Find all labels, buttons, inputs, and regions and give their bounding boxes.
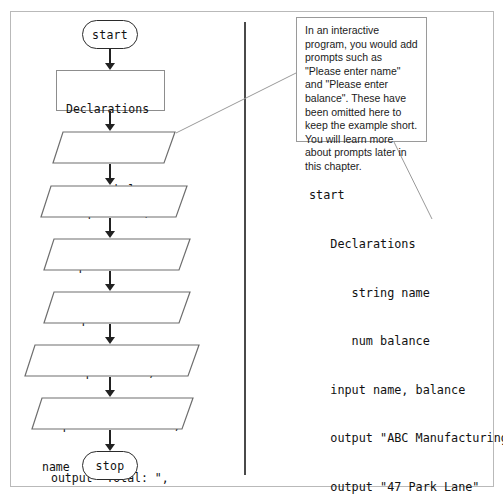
pseudocode-line: output "ABC Manufacturing" — [309, 430, 503, 446]
parallelogram-shape — [43, 238, 191, 271]
pseudocode-line: string name — [309, 285, 503, 301]
flow-node-output-customer: output "Customer: ", name — [24, 344, 200, 377]
connector-park-to-omro — [104, 271, 116, 292]
flow-node-input: input name, balance — [52, 131, 176, 164]
callout-note: In an interactive program, you would add… — [296, 17, 427, 142]
parallelogram-shape — [31, 397, 194, 430]
connector-input-to-output-abc — [104, 164, 116, 186]
pseudocode-line: start — [309, 187, 503, 203]
parallelogram-shape — [43, 291, 191, 324]
callout-note-text: In an interactive program, you would add… — [305, 24, 418, 172]
pseudocode-line: output "47 Park Lane" — [309, 479, 503, 495]
connector-declarations-to-input — [104, 111, 116, 132]
pseudocode-listing: start Declarations string name num balan… — [309, 155, 503, 498]
connector-customer-to-total — [104, 377, 116, 398]
connector-total-to-stop — [104, 430, 116, 452]
flowchart-panel: start Declarations string name num balan… — [0, 0, 245, 498]
flow-node-output-total: output "Total: ", balance — [31, 397, 194, 430]
flow-node-stop-label: stop — [96, 459, 125, 473]
connector-omro-to-customer — [104, 324, 116, 345]
parallelogram-shape — [52, 131, 176, 164]
flow-node-declarations: Declarations string name num balance — [56, 70, 165, 111]
pseudocode-line: Declarations — [309, 236, 503, 252]
flow-node-stop: stop — [82, 451, 138, 480]
parallelogram-shape — [24, 344, 200, 377]
flow-node-output-omro: output "Omro, WI 54963" — [43, 291, 191, 324]
parallelogram-shape — [40, 185, 188, 218]
pseudocode-line: num balance — [309, 333, 503, 349]
flow-node-start-label: start — [92, 28, 128, 42]
flow-node-output-abc: output "ABC Manufacturing" — [40, 185, 188, 218]
flow-node-start: start — [82, 20, 138, 49]
pseudocode-line: input name, balance — [309, 382, 503, 398]
flow-node-output-park: output "47 Park Lane" — [43, 238, 191, 271]
figure-root: start Declarations string name num balan… — [0, 0, 503, 498]
connector-start-to-declarations — [104, 49, 116, 70]
connector-abc-to-park — [104, 218, 116, 239]
